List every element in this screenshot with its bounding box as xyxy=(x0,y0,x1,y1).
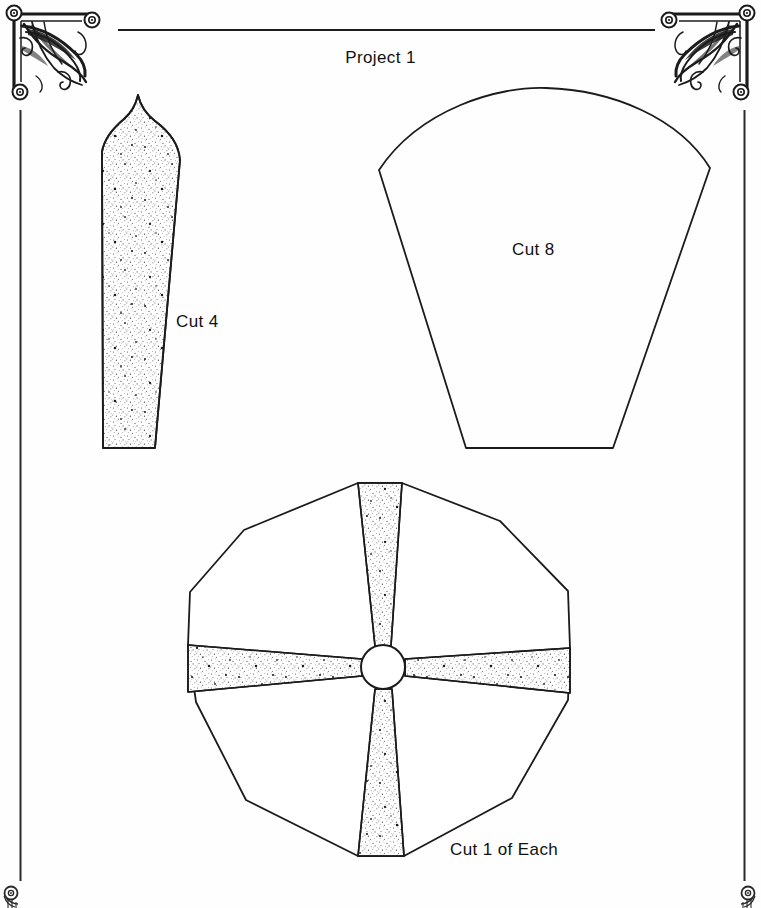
pattern-piece-cut4 xyxy=(102,95,180,448)
pattern-sheet-page: Project 1 Cut 4 Cut 8 Cut 1 of Each xyxy=(0,0,761,908)
bottom-left-corner-ornament-icon xyxy=(4,887,18,908)
piece-label-cut1-of-each: Cut 1 of Each xyxy=(450,840,558,860)
page-title: Project 1 xyxy=(0,48,761,68)
center-hub-circle xyxy=(361,645,405,689)
piece-label-cut8: Cut 8 xyxy=(512,240,555,260)
pattern-piece-cut8 xyxy=(379,88,710,448)
pattern-piece-cut1-of-each xyxy=(188,483,570,856)
pattern-drawing-canvas xyxy=(0,0,761,908)
piece-label-cut4: Cut 4 xyxy=(176,312,219,332)
bottom-right-corner-ornament-icon xyxy=(741,887,755,908)
